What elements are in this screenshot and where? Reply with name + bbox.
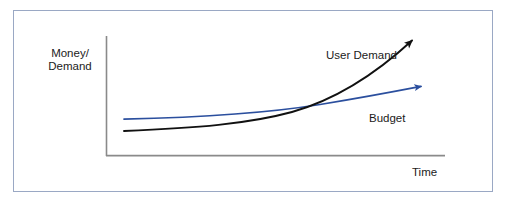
series-label-budget: Budget (369, 112, 405, 125)
chart-figure: Money/ Demand Time User Demand Budget (0, 0, 508, 205)
y-axis-label: Money/ Demand (40, 47, 100, 73)
x-axis-label: Time (412, 166, 437, 179)
series-label-user-demand: User Demand (326, 49, 397, 62)
